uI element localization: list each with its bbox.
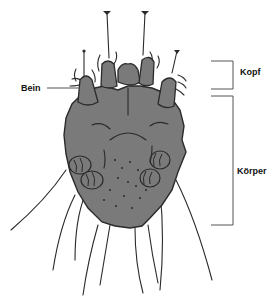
mite-diagram: Bein Kopf Körper [0,0,280,297]
body-label: Körper [237,167,267,176]
mite-illustration [0,0,280,297]
body-bracket [211,96,233,225]
head-parts [101,57,154,88]
hair-knobs [82,11,180,54]
head-bracket [211,61,233,89]
head-label: Kopf [240,68,261,77]
leg-label: Bein [21,84,41,93]
